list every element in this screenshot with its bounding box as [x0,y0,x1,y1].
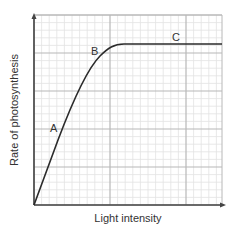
x-axis [34,203,226,208]
annotation-c: C [172,31,180,43]
y-axis-label: Rate of photosynthesis [8,54,20,166]
y-axis-arrow-icon [32,13,37,19]
y-axis [32,13,37,205]
x-axis-arrow-icon [220,203,226,208]
x-axis-label: Light intensity [94,212,162,224]
annotation-a: A [50,122,58,134]
chart: A B C Light intensity Rate of photosynth… [0,0,240,235]
annotation-b: B [91,45,98,57]
